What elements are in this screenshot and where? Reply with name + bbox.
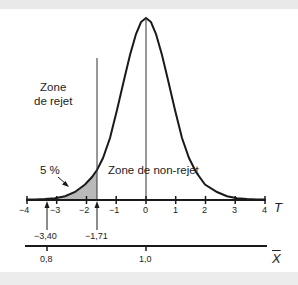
xbar-tick-label: 1,0 [139, 254, 152, 264]
t-tick-label: 4 [262, 205, 267, 215]
t-tick-label: −2 [79, 205, 89, 215]
critical-value-arrow [95, 201, 100, 230]
rejection-region-shading [27, 170, 97, 200]
observed-value-label: −3,40 [34, 231, 57, 241]
t-distribution-diagram [0, 0, 298, 285]
t-tick-label: 2 [202, 205, 207, 215]
t-tick-label: −1 [109, 205, 119, 215]
xbar-axis-name: X [272, 251, 281, 266]
t-axis-name: T [274, 200, 282, 215]
t-tick-label: 3 [232, 205, 237, 215]
t-tick-label: 0 [143, 205, 148, 215]
alpha-pointer-arrow [58, 177, 69, 187]
alpha-label: 5 % [40, 163, 60, 177]
reject-zone-line1: Zone [34, 80, 72, 94]
t-tick-label: 1 [173, 205, 178, 215]
reject-zone-label: Zone de rejet [34, 80, 72, 108]
observed-value-arrow [45, 201, 50, 230]
nonreject-zone-label: Zone de non-rejet [108, 163, 199, 177]
reject-zone-line2: de rejet [34, 94, 72, 108]
t-tick-label: −3 [50, 205, 60, 215]
xbar-tick-label: 0,8 [40, 254, 53, 264]
critical-value-label: −1,71 [85, 231, 108, 241]
t-tick-label: −4 [19, 205, 29, 215]
